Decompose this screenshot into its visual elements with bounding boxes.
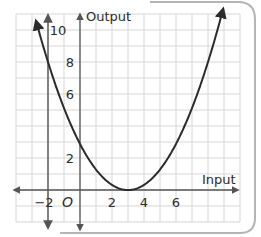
x-axis-label: Input [202, 172, 236, 187]
graph: Output Input O 10 8 6 2 −2 2 4 6 [0, 0, 261, 237]
y-tick-10: 10 [50, 23, 67, 38]
x-tick-2: 2 [108, 195, 116, 210]
y-tick-2: 2 [66, 151, 74, 166]
frame-border [60, 2, 255, 233]
x-tick-6: 6 [172, 195, 180, 210]
y-axis-label: Output [86, 9, 131, 24]
y-tick-6: 6 [66, 87, 74, 102]
x-tick-4: 4 [140, 195, 148, 210]
y-tick-8: 8 [66, 55, 74, 70]
origin-label: O [62, 194, 73, 210]
x-tick-neg2: −2 [34, 195, 53, 210]
